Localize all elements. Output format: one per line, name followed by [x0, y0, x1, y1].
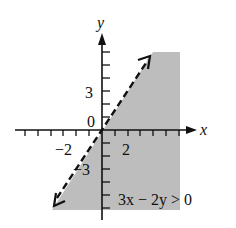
origin-label: 0	[87, 113, 95, 130]
inequality-graph: y x 0 3 −2 2 −3 3x − 2y > 0	[0, 0, 236, 228]
x-tick-label-neg2: −2	[55, 141, 72, 158]
y-axis-label: y	[95, 14, 105, 32]
shaded-region	[52, 52, 180, 210]
x-axis-label: x	[199, 121, 207, 138]
y-tick-label-3: 3	[85, 84, 93, 101]
x-axis-arrow-icon	[186, 126, 197, 134]
y-axis-arrow-icon	[98, 33, 106, 45]
y-tick-label-neg3: −3	[73, 161, 90, 178]
inequality-label: 3x − 2y > 0	[118, 191, 192, 209]
x-tick-label-2: 2	[122, 141, 130, 158]
